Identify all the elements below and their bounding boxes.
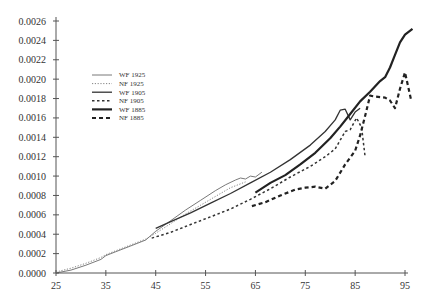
legend: WF 1925NF 1925WF 1905NF 1905WF 1885NF 18… bbox=[92, 71, 146, 122]
x-tick-label: 75 bbox=[300, 280, 310, 291]
series-nf-1885 bbox=[252, 72, 411, 206]
series-lines bbox=[56, 29, 413, 273]
legend-label: WF 1925 bbox=[119, 71, 146, 79]
y-tick-label: 0.0026 bbox=[19, 16, 47, 27]
line-chart: 0.00000.00020.00040.00060.00080.00100.00… bbox=[0, 0, 428, 303]
legend-label: WF 1885 bbox=[119, 106, 146, 114]
y-tick-label: 0.0024 bbox=[19, 35, 47, 46]
x-tick-label: 95 bbox=[400, 280, 410, 291]
x-tick-label: 65 bbox=[250, 280, 260, 291]
y-tick-label: 0.0000 bbox=[19, 268, 47, 279]
legend-label: NF 1905 bbox=[119, 97, 144, 105]
x-tick-label: 85 bbox=[350, 280, 360, 291]
series-wf-1885 bbox=[255, 29, 412, 193]
y-tick-label: 0.0016 bbox=[19, 112, 47, 123]
y-tick-label: 0.0006 bbox=[19, 209, 47, 220]
y-tick-label: 0.0014 bbox=[19, 132, 47, 143]
axes: 0.00000.00020.00040.00060.00080.00100.00… bbox=[19, 16, 411, 292]
legend-label: WF 1905 bbox=[119, 89, 146, 97]
x-tick-label: 25 bbox=[51, 280, 61, 291]
y-tick-label: 0.0022 bbox=[19, 54, 47, 65]
x-tick-label: 45 bbox=[151, 280, 161, 291]
series-wf-1925 bbox=[56, 172, 262, 273]
y-tick-label: 0.0004 bbox=[19, 229, 47, 240]
x-tick-label: 55 bbox=[201, 280, 211, 291]
legend-label: NF 1925 bbox=[119, 80, 144, 88]
y-tick-label: 0.0002 bbox=[19, 248, 47, 259]
y-tick-label: 0.0012 bbox=[19, 151, 47, 162]
y-tick-label: 0.0008 bbox=[19, 190, 47, 201]
legend-label: NF 1885 bbox=[119, 114, 144, 122]
series-nf-1925 bbox=[56, 182, 246, 272]
y-tick-label: 0.0020 bbox=[19, 74, 47, 85]
y-tick-label: 0.0018 bbox=[19, 93, 47, 104]
series-wf-1905 bbox=[156, 108, 360, 228]
y-tick-label: 0.0010 bbox=[19, 171, 47, 182]
x-tick-label: 35 bbox=[101, 280, 111, 291]
